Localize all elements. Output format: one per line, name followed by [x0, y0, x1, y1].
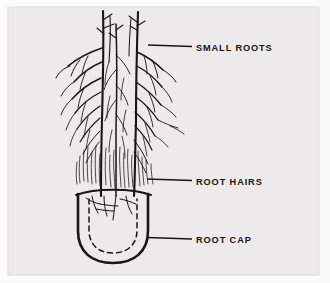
root-cap-label: ROOT CAP — [196, 235, 252, 245]
root-tip-figure: SMALL ROOTS ROOT HAIRS ROOT CAP — [0, 0, 330, 283]
root-hairs-label: ROOT HAIRS — [196, 177, 263, 187]
small-roots-label: SMALL ROOTS — [196, 43, 273, 53]
root-diagram-canvas: SMALL ROOTS ROOT HAIRS ROOT CAP — [0, 0, 330, 283]
